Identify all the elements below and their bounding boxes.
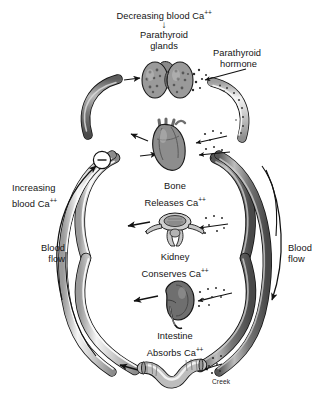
arrow-hormone-to-heart-upper [196, 136, 227, 143]
label-parathyroid-glands-line1: Parathyroid [122, 30, 206, 41]
arrow-heart-out-upper [131, 134, 148, 141]
arrow-to-glands [124, 78, 140, 80]
label-kidney-line2: Conserves Ca++ [112, 265, 238, 281]
label-blood-flow-right-line2: flow [288, 254, 305, 265]
label-bone-line1: Bone [125, 181, 225, 192]
intestine-illustration [142, 359, 204, 382]
negative-feedback-symbol [93, 151, 110, 168]
vertebra-bone-illustration [145, 213, 204, 246]
label-blood-flow-left-line2: flow [10, 254, 65, 265]
label-bone-line2: Releases Ca++ [115, 194, 235, 210]
heart-illustration [153, 119, 186, 170]
artist-signature: Creek [212, 378, 230, 385]
label-parathyroid-hormone-line2: hormone [220, 59, 257, 70]
vessel-top-left-arc [84, 79, 118, 135]
down-arrow-icon: ↓ [146, 20, 182, 30]
label-parathyroid-glands-line2: glands [122, 41, 206, 52]
label-intestine-line2: Absorbs Ca++ [115, 344, 235, 360]
label-intestine-line1: Intestine [125, 331, 225, 342]
label-parathyroid-hormone-line1: Parathyroid [213, 48, 261, 59]
kidney-illustration [166, 281, 194, 328]
label-blood-flow-left-line1: Blood [10, 243, 65, 254]
vessel-top-right-arc [212, 82, 245, 138]
calcium-homeostasis-diagram: Decreasing blood Ca++ ↓ Parathyroid glan… [0, 0, 326, 398]
label-increasing-blood-ca-line2: blood Ca++ [12, 195, 57, 211]
label-increasing-blood-ca-line1: Increasing [12, 183, 55, 194]
hormone-particles-kidney [198, 287, 225, 307]
label-kidney-line1: Kidney [125, 252, 225, 263]
leader-parathyroid-hormone [205, 69, 246, 80]
parathyroid-glands-illustration [142, 62, 193, 98]
label-blood-flow-right-line1: Blood [288, 243, 312, 254]
arrow-kidney-out [134, 296, 158, 301]
arrow-bone-out [128, 222, 150, 226]
hormone-particles-glands [192, 69, 207, 91]
